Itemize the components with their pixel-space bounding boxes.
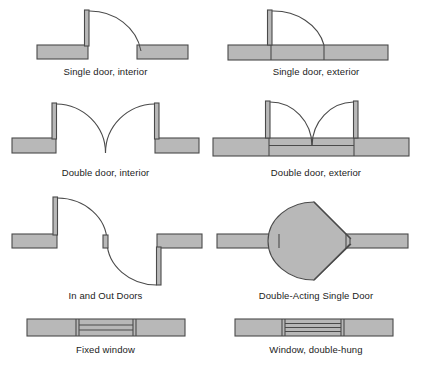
symbol-label: Double door, exterior: [211, 167, 421, 178]
fixed-window-figure: [0, 312, 211, 342]
wall-bar: [228, 45, 388, 60]
door-panel: [85, 10, 90, 46]
in-and-out-doors-figure: [0, 192, 211, 287]
single-door-exterior-figure: [211, 2, 421, 66]
door-swing-arc: [272, 11, 324, 45]
door-panel-upper: [53, 197, 58, 235]
double-door-exterior-figure: [211, 97, 421, 163]
symbol-single-door-exterior[interactable]: Single door, exterior: [211, 2, 421, 82]
symbol-label: Double-Acting Single Door: [211, 290, 421, 301]
symbol-label: Double door, interior: [0, 167, 211, 178]
architectural-symbols-sheet: Single door, interior Single door, exter…: [0, 0, 421, 370]
wall-segment-left: [37, 45, 88, 59]
symbol-label: Single door, interior: [0, 66, 211, 77]
single-door-interior-figure: [0, 2, 211, 66]
center-stop: [103, 235, 108, 248]
door-swing-arc-right: [106, 104, 155, 153]
door-panel-left: [266, 101, 271, 138]
door-panel: [268, 10, 273, 45]
symbol-window-double-hung[interactable]: Window, double-hung: [211, 312, 421, 362]
wall-bar: [27, 319, 185, 336]
double-acting-single-door-figure: [211, 192, 421, 287]
door-panel-right: [155, 103, 160, 139]
door-swing-arc-upper: [58, 198, 108, 242]
symbol-label: In and Out Doors: [0, 290, 211, 301]
symbol-single-door-interior[interactable]: Single door, interior: [0, 2, 211, 82]
wall-segment-right: [155, 138, 199, 153]
symbol-double-door-exterior[interactable]: Double door, exterior: [211, 97, 421, 182]
door-swing-arc-left: [57, 104, 106, 153]
wall-segment-upper-left: [12, 234, 57, 248]
door-swing-arc: [89, 11, 141, 51]
wall-bar: [213, 138, 409, 156]
window-double-hung-figure: [211, 312, 421, 342]
swing-arc-left: [268, 202, 314, 280]
double-door-interior-figure: [0, 97, 211, 163]
symbol-double-acting-single-door[interactable]: Double-Acting Single Door: [211, 192, 421, 297]
door-panel-left: [52, 103, 57, 139]
door-panel-right: [354, 101, 359, 138]
symbol-fixed-window[interactable]: Fixed window: [0, 312, 211, 362]
wall-segment-left: [12, 138, 56, 153]
door-panel-lower: [157, 247, 162, 285]
symbol-in-and-out-doors[interactable]: In and Out Doors: [0, 192, 211, 297]
wall-segment-right: [137, 45, 188, 59]
symbol-label: Window, double-hung: [211, 344, 421, 355]
wall-segment-lower-right: [157, 234, 202, 248]
symbol-label: Single door, exterior: [211, 66, 421, 77]
wall-segment-right: [346, 234, 408, 248]
symbol-double-door-interior[interactable]: Double door, interior: [0, 97, 211, 182]
door-swing-arc-lower: [107, 242, 157, 285]
symbol-label: Fixed window: [0, 344, 211, 355]
